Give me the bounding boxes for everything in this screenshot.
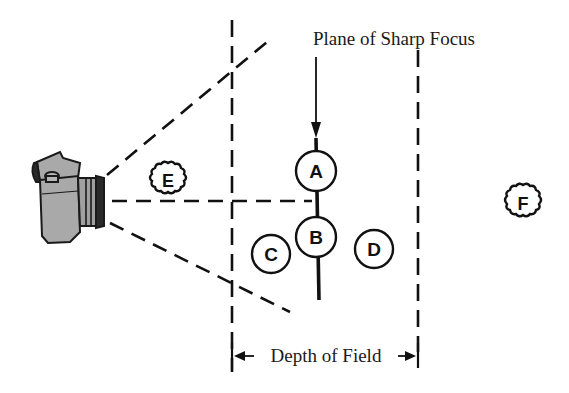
subject-c: C (252, 235, 290, 273)
dof-right-arrowhead (405, 351, 416, 361)
subject-e-label: E (162, 171, 174, 191)
subject-e: E (150, 162, 186, 194)
subject-d: D (355, 230, 393, 268)
focus-pointer-arrowhead (311, 122, 321, 138)
dof-left-arrowhead (234, 351, 245, 361)
depth-of-field-label: Depth of Field (271, 345, 382, 366)
subject-b-label: B (309, 227, 323, 248)
subject-a-label: A (309, 161, 323, 182)
subject-b: B (296, 217, 336, 257)
plane-of-sharp-focus-title: Plane of Sharp Focus (313, 28, 475, 49)
subject-c-label: C (264, 244, 278, 265)
fov-upper-line (107, 37, 273, 175)
subject-a: A (296, 151, 336, 191)
depth-of-field-boundaries (232, 20, 418, 372)
depth-of-field-dimension: Depth of Field (234, 345, 416, 366)
depth-of-field-diagram: A B C D E F Plane of Sharp (0, 0, 569, 393)
camera-icon (32, 152, 104, 243)
subject-d-label: D (367, 239, 381, 260)
subject-f: F (505, 184, 541, 217)
subject-f-label: F (518, 194, 529, 214)
